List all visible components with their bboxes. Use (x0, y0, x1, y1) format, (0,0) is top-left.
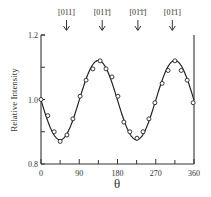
data-point (135, 136, 139, 140)
fit-line (41, 61, 194, 140)
intensity-chart: 0.81.01.2090180270360 [011][011̄][01̄1̄]… (0, 0, 211, 197)
data-point (160, 81, 164, 85)
data-point (110, 75, 114, 79)
x-tick-label: 90 (75, 169, 83, 178)
y-axis-label: Relative Intensity (9, 68, 19, 132)
y-tick-label: 1.0 (28, 96, 38, 105)
data-point (173, 59, 177, 63)
data-point (128, 130, 132, 134)
data-point (147, 117, 151, 121)
data-point (58, 139, 62, 143)
direction-label: [011̄] (94, 8, 111, 17)
x-tick-label: 270 (150, 169, 162, 178)
data-point (185, 78, 189, 82)
data-point (78, 94, 82, 98)
data-points (39, 59, 195, 144)
y-tick-label: 0.8 (28, 160, 38, 169)
data-point (71, 117, 75, 121)
data-point (46, 114, 50, 118)
data-point (116, 94, 120, 98)
data-point (179, 68, 183, 72)
data-point (84, 78, 88, 82)
y-tick-label: 1.2 (28, 31, 38, 40)
fit-curve (41, 61, 194, 140)
axes: 0.81.01.2090180270360 (28, 31, 200, 178)
data-point (104, 67, 108, 71)
x-axis-label: θ (114, 176, 120, 191)
x-tick-label: 360 (188, 169, 200, 178)
data-point (153, 101, 157, 105)
data-point (166, 68, 170, 72)
data-point (122, 120, 126, 124)
data-point (191, 101, 195, 105)
data-point (141, 130, 145, 134)
data-point (98, 59, 102, 63)
direction-label: [011] (58, 8, 75, 17)
direction-annotations: [011][011̄][01̄1̄][01̄1] (58, 8, 181, 31)
direction-label: [01̄1̄] (129, 8, 146, 17)
x-tick-label: 0 (39, 169, 43, 178)
data-point (91, 67, 95, 71)
direction-label: [01̄1] (164, 8, 181, 17)
data-point (39, 98, 43, 102)
data-point (65, 133, 69, 137)
data-point (52, 130, 56, 134)
